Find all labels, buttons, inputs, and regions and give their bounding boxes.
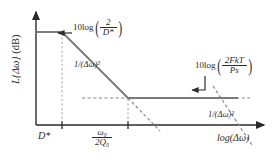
phase-noise-figure: L{Δω} (dB) 10log(2D*) 10log(2FkTPs) 1/(Δ… xyxy=(0,0,278,163)
noise-floor-annotation-prefix: 10log xyxy=(195,60,216,70)
corner-numerator: ω₀ xyxy=(92,128,112,137)
noise-floor-annotation-arrow xyxy=(192,76,205,90)
noise-floor-annotation: 10log(2FkTPs) xyxy=(195,56,253,75)
close-paren-icon-2: ) xyxy=(248,56,252,75)
plateau-denominator: D* xyxy=(100,27,117,37)
x-axis-label: log(Δω) xyxy=(217,133,249,143)
plateau-annotation-prefix: 10log xyxy=(73,22,94,32)
noise-floor-numerator: 2FkT xyxy=(222,56,247,65)
y-axis-label-unit: (dB) xyxy=(10,34,21,53)
noise-floor-denominator: Ps xyxy=(222,65,247,75)
open-paren-icon-2: ( xyxy=(217,56,221,75)
plateau-numerator: 2 xyxy=(100,18,117,27)
x-tick-label-d-star: D* xyxy=(38,131,50,141)
noise-floor-fraction: 2FkTPs xyxy=(222,56,247,75)
slope-label-lower: 1/(Δω)² xyxy=(208,110,234,119)
slope-label-upper: 1/(Δω)² xyxy=(74,60,100,69)
plateau-annotation: 10log(2D*) xyxy=(73,18,123,37)
slope-asymptote-extension xyxy=(128,98,160,131)
open-paren-icon: ( xyxy=(95,18,99,37)
y-axis-label: L{Δω} (dB) xyxy=(11,13,22,105)
corner-fraction: ω₀ 2Q₀ xyxy=(92,128,112,147)
x-tick-label-corner: ω₀ 2Q₀ xyxy=(92,128,112,147)
close-paren-icon: ) xyxy=(118,18,122,37)
plateau-fraction: 2D* xyxy=(100,18,117,37)
y-axis-label-main: L{Δω} xyxy=(10,56,21,84)
corner-denominator: 2Q₀ xyxy=(92,137,112,147)
